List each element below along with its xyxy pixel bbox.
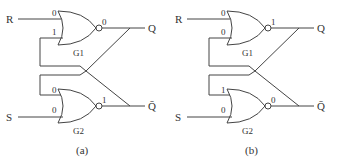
input-s-label: S: [175, 111, 181, 123]
input-s-label: S: [6, 111, 12, 123]
nor-gate-g2: [227, 89, 271, 123]
g2-in-top-value: 0: [52, 85, 57, 95]
input-r-label: R: [175, 13, 183, 25]
g1-out-value: 1: [271, 17, 276, 27]
caption-a: (a): [76, 144, 89, 157]
output-q-label: Q: [148, 22, 156, 34]
panel-b: R 0 0 1 G1 Q 1 0 0 G2 S Q̄ (b): [175, 8, 325, 157]
g2-in-bottom-value: 0: [52, 105, 57, 115]
nor-gate-g2: [58, 89, 102, 123]
g2-out-value: 1: [102, 95, 107, 105]
output-q-label: Q: [317, 22, 325, 34]
caption-b: (b): [245, 144, 258, 157]
g2-in-bottom-value: 0: [221, 105, 226, 115]
input-r-label: R: [6, 13, 14, 25]
g1-in-bottom-value: 1: [52, 27, 57, 37]
sr-latch-diagram: R 0 1 0 G1 Q 0 0 1 G2 S Q̄ (a) R 0 0: [0, 0, 339, 163]
nor-gate-g1: [227, 11, 271, 45]
g1-in-bottom-value: 0: [221, 27, 226, 37]
g2-out-value: 0: [271, 95, 276, 105]
g2-in-top-value: 1: [221, 85, 226, 95]
g1-in-top-value: 0: [52, 8, 57, 18]
g1-label: G1: [73, 48, 84, 58]
g1-label: G1: [242, 48, 253, 58]
nor-gate-g1: [58, 11, 102, 45]
output-qbar-label: Q̄: [317, 100, 325, 112]
output-qbar-label: Q̄: [148, 100, 156, 112]
panel-a: R 0 1 0 G1 Q 0 0 1 G2 S Q̄ (a): [6, 8, 156, 157]
g1-in-top-value: 0: [221, 8, 226, 18]
g2-label: G2: [242, 126, 253, 136]
g1-out-value: 0: [102, 17, 107, 27]
g2-label: G2: [73, 126, 84, 136]
